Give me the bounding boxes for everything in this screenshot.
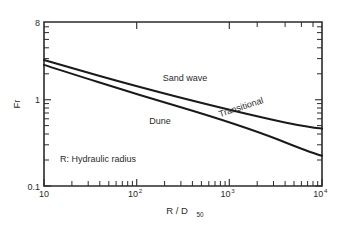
x-tick-label-1000-base: 10 [221,189,231,199]
sand-wave-label: Sand wave [163,73,208,83]
x-tick-label-100-base: 10 [128,189,138,199]
x-tick-label-10: 10 [39,189,49,199]
y-axis-title: Fr [11,100,22,109]
y-axis-title-group: Fr [11,100,22,109]
x-axis-title: R / D [166,205,188,216]
hydraulic-radius-note: R: Hydraulic radius [60,154,137,164]
x-tick-label-10000-exponent: 4 [324,187,328,194]
chart-background [0,0,339,226]
x-axis-title-subscript: 50 [196,211,204,218]
y-tick-label-8: 8 [35,18,40,28]
x-tick-label-10000-base: 10 [313,189,323,199]
x-tick-label-1000-exponent: 3 [231,187,235,194]
x-tick-label-100-exponent: 2 [139,187,143,194]
y-tick-label-1: 1 [35,95,40,105]
note-group: R: Hydraulic radius [60,154,137,164]
froude-bedform-chart: 8 1 0.1 Fr 10 10 2 10 3 10 4 R / D 50 Sa… [0,0,339,226]
chart-figure-page: 8 1 0.1 Fr 10 10 2 10 3 10 4 R / D 50 Sa… [0,0,339,226]
dune-label: Dune [149,116,171,126]
